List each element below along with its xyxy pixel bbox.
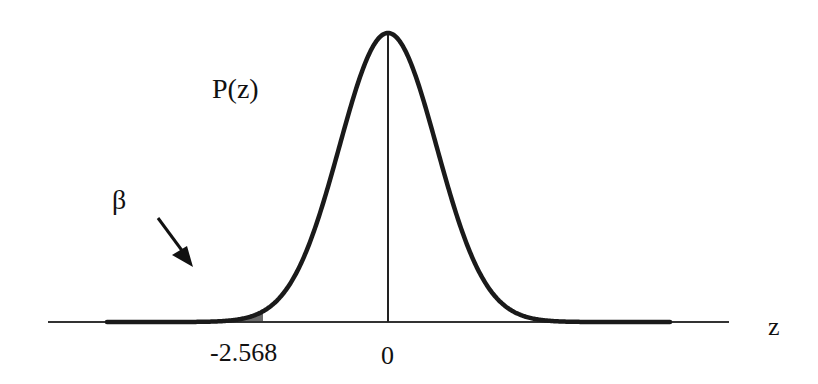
curve-label: P(z) <box>212 75 259 103</box>
beta-label: β <box>112 186 126 214</box>
axis-label-z: z <box>768 314 780 340</box>
tick-label-zero: 0 <box>381 343 394 369</box>
tick-label-critical: -2.568 <box>210 340 277 366</box>
arrow-icon <box>158 218 193 267</box>
